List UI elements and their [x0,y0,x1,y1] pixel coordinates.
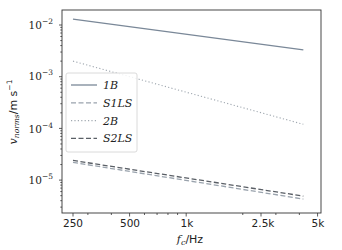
series-line-s1ls [73,162,303,199]
legend: 1BS1LS2BS2LS [66,73,137,152]
x-axis-label: fc/Hz [176,233,204,247]
ytick-label: 10−4 [29,121,54,135]
legend-label-s2ls: S2LS [103,132,133,145]
xtick-label: 250 [63,217,83,229]
legend-label-s1ls: S1LS [103,97,133,110]
ytick-label: 10−5 [29,172,54,186]
xtick-label: 2.5k [252,217,276,229]
y-tick-labels: 10−2 10−3 10−4 10−5 [29,17,54,186]
y-axis-label: vnorms/m s−1 [5,79,21,144]
line-chart: 10−2 10−3 10−4 10−5 250 500 1k 2.5k 5k f… [0,0,342,250]
series-line-1b [73,19,303,50]
ytick-label: 10−2 [29,17,54,31]
xtick-label: 500 [120,217,140,229]
xtick-label: 1k [181,217,195,229]
series-line-s2ls [73,160,303,196]
legend-label-1b: 1B [103,79,118,92]
x-tick-labels: 250 500 1k 2.5k 5k [63,217,325,229]
legend-label-2b: 2B [102,115,118,128]
ytick-label: 10−3 [29,68,54,82]
xtick-label: 5k [312,217,326,229]
